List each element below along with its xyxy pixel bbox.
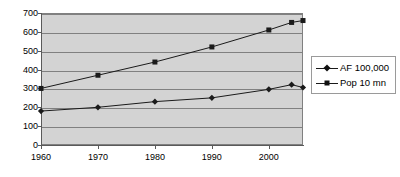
gridline: [42, 127, 302, 128]
y-axis-tick-label: 200: [2, 103, 38, 112]
y-axis-tick-label: 600: [2, 28, 38, 37]
x-axis-tick-label: 1960: [21, 153, 61, 162]
x-axis-line: [41, 145, 304, 146]
gridline: [42, 108, 302, 109]
legend-label: Pop 10 mn: [340, 77, 386, 88]
square-marker-icon: [314, 77, 340, 89]
x-axis-tick-label: 1970: [78, 153, 118, 162]
y-axis-tick-label: 100: [2, 122, 38, 131]
y-axis-tick-mark: [38, 32, 41, 33]
gridline: [42, 14, 302, 15]
legend-item-pop-10-mn[interactable]: Pop 10 mn: [314, 75, 393, 90]
plot-area: [41, 13, 303, 145]
line-chart: 0100200300400500600700 19601970198019902…: [0, 0, 400, 177]
x-axis-tick-mark: [41, 145, 42, 149]
x-axis-tick-label: 1990: [192, 153, 232, 162]
y-axis-tick-labels: 0100200300400500600700: [0, 0, 38, 177]
y-axis-line: [41, 13, 42, 146]
legend: AF 100,000 Pop 10 mn: [311, 56, 396, 94]
y-axis-tick-label: 700: [2, 9, 38, 18]
y-axis-tick-mark: [38, 51, 41, 52]
y-axis-tick-mark: [38, 70, 41, 71]
diamond-marker-icon: [314, 62, 340, 74]
gridline: [42, 71, 302, 72]
x-axis-tick-mark: [269, 145, 270, 149]
x-axis-tick-label: 1980: [135, 153, 175, 162]
x-axis-tick-mark: [155, 145, 156, 149]
y-axis-tick-mark: [38, 107, 41, 108]
y-axis-tick-mark: [38, 126, 41, 127]
x-axis-tick-mark: [98, 145, 99, 149]
gridline: [42, 89, 302, 90]
x-axis-tick-mark: [212, 145, 213, 149]
legend-label: AF 100,000: [340, 62, 389, 73]
y-axis-tick-label: 500: [2, 47, 38, 56]
y-axis-tick-label: 400: [2, 66, 38, 75]
y-axis-tick-label: 300: [2, 84, 38, 93]
y-axis-tick-mark: [38, 13, 41, 14]
gridline: [42, 52, 302, 53]
gridline: [42, 33, 302, 34]
y-axis-tick-label: 0: [2, 141, 38, 150]
legend-item-af-100000[interactable]: AF 100,000: [314, 60, 393, 75]
y-axis-tick-mark: [38, 88, 41, 89]
x-axis-tick-label: 2000: [249, 153, 289, 162]
